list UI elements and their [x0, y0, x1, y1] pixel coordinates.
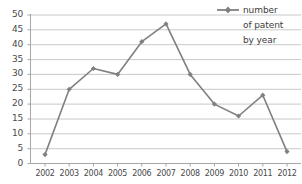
y-axis-tick-label: 20 [3, 99, 23, 108]
y-axis-tick-label: 15 [3, 114, 23, 123]
legend-label-row-2: of patent [216, 17, 302, 32]
y-axis-tick-label: 0 [3, 159, 23, 168]
y-axis-tick-label: 30 [3, 69, 23, 78]
y-axis-tick-label: 45 [3, 25, 23, 34]
x-axis-tick-label: 2003 [56, 169, 82, 178]
chart-legend: number of patent by year [216, 2, 302, 47]
legend-label-line-2: of patent [243, 20, 283, 30]
x-axis-tick-label: 2002 [32, 169, 58, 178]
legend-entry-number-of-patent-by-year: number [216, 2, 302, 17]
data-point-marker [284, 149, 289, 154]
y-axis-tick-label: 25 [3, 84, 23, 93]
data-point-marker [42, 152, 47, 157]
x-axis-tick-label: 2006 [129, 169, 155, 178]
y-axis-tick-label: 5 [3, 144, 23, 153]
y-axis-tick-label: 35 [3, 55, 23, 64]
x-axis-tick-label: 2004 [80, 169, 106, 178]
x-axis-tick-label: 2010 [226, 169, 252, 178]
x-axis-tick-label: 2005 [105, 169, 131, 178]
x-axis-tick-label: 2007 [153, 169, 179, 178]
y-axis-tick-label: 50 [3, 10, 23, 19]
legend-label-line-3: by year [243, 35, 276, 45]
x-axis-tick-label: 2012 [274, 169, 300, 178]
y-axis-tick-label: 40 [3, 40, 23, 49]
x-axis-tick-label: 2011 [250, 169, 276, 178]
legend-label-line-1: number [243, 5, 278, 15]
x-axis-tick-label: 2008 [177, 169, 203, 178]
x-axis-tick-label: 2009 [201, 169, 227, 178]
y-axis-tick-label: 10 [3, 129, 23, 138]
line-with-diamond-marker-icon [216, 5, 240, 15]
legend-label-row-3: by year [216, 32, 302, 47]
patent-line-chart: 05101520253035404550 2002200320042005200… [0, 0, 302, 184]
